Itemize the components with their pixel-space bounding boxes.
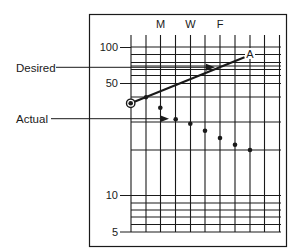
- desired-point: [144, 95, 148, 99]
- start-marker-dot: [128, 101, 133, 106]
- celeration-chart: 100 50 10 5 M W F A Desired Actual: [0, 0, 299, 250]
- desired-annotation-label: Desired: [16, 62, 56, 74]
- x-label-wednesday: W: [185, 18, 196, 30]
- a-label: A: [246, 48, 254, 60]
- actual-arrowhead-icon: [160, 115, 169, 122]
- y-label-10: 10: [106, 189, 118, 201]
- actual-annotation-label: Actual: [16, 113, 48, 125]
- chart-frame: [90, 15, 287, 247]
- y-label-100: 100: [100, 41, 118, 53]
- x-label-monday: M: [156, 18, 165, 30]
- y-label-5: 5: [112, 226, 118, 238]
- horizontal-gridlines: [131, 47, 281, 232]
- y-ticks: [120, 48, 131, 233]
- x-label-friday: F: [217, 18, 224, 30]
- y-label-50: 50: [106, 77, 118, 89]
